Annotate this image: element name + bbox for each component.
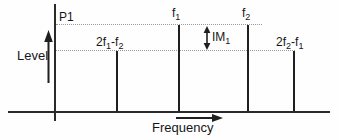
label-sub: 2: [245, 12, 250, 22]
x-axis-label-text: Frequency: [152, 120, 213, 135]
spectral-line-f2: [247, 25, 249, 111]
im1-label: IM1: [212, 31, 230, 44]
spectral-line-label-2f2-f1: 2f2-f1: [276, 36, 303, 49]
y-axis-label: Level: [17, 49, 48, 62]
label-text: 2f: [276, 35, 286, 49]
label-text: IM: [212, 30, 225, 44]
spectral-line-2f1-f2: [116, 51, 118, 111]
spectral-line-label-f1: f1: [172, 7, 180, 20]
label-sub: 1: [175, 12, 180, 22]
intermod-level-dotted-line: [56, 50, 295, 51]
label-sub: 1: [225, 36, 230, 46]
label-sub: 2: [118, 41, 123, 51]
label-sub: 1: [298, 41, 303, 51]
spectral-line-label-f2: f2: [242, 7, 250, 20]
spectrum-diagram: Level P1 2f1-f2 f1 f2 2f2-f1 IM1 Frequen…: [0, 0, 339, 140]
y-axis-label-text: Level: [17, 48, 48, 63]
label-text: 2f: [96, 35, 106, 49]
x-axis-label: Frequency: [152, 121, 213, 134]
p1-label: P1: [59, 11, 74, 24]
x-axis: [8, 111, 330, 113]
spectral-line-f1: [178, 25, 180, 111]
fundamental-level-dotted-line: [56, 24, 262, 25]
p1-label-text: P1: [59, 10, 74, 24]
spectral-line-label-2f1-f2: 2f1-f2: [96, 36, 123, 49]
spectral-line-2f2-f1: [293, 51, 295, 111]
